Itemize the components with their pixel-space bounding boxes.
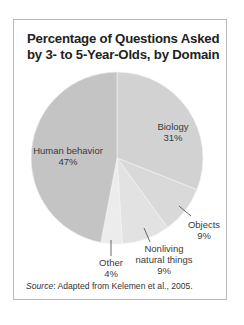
source-label: Source: [26, 281, 53, 291]
label-nonliving: Nonliving natural things 9%: [132, 243, 196, 276]
label-biology: Biology 31%: [148, 121, 198, 143]
label-other: Other 4%: [92, 257, 130, 279]
label-nonliving-name-2: natural things: [132, 254, 196, 265]
label-objects: Objects 9%: [184, 219, 224, 241]
label-nonliving-name-1: Nonliving: [132, 243, 196, 254]
label-objects-name: Objects: [184, 219, 224, 230]
label-nonliving-value: 9%: [132, 265, 196, 276]
source-text: : Adapted from Kelemen et al., 2005.: [53, 281, 193, 291]
source-note: Source: Adapted from Kelemen et al., 200…: [26, 281, 193, 291]
label-biology-name: Biology: [148, 121, 198, 132]
label-other-value: 4%: [92, 268, 130, 279]
label-human-name: Human behavior: [28, 145, 108, 156]
label-biology-value: 31%: [148, 132, 198, 143]
label-human-value: 47%: [28, 156, 108, 167]
label-objects-value: 9%: [184, 230, 224, 241]
label-other-name: Other: [92, 257, 130, 268]
label-human-behavior: Human behavior 47%: [28, 145, 108, 167]
